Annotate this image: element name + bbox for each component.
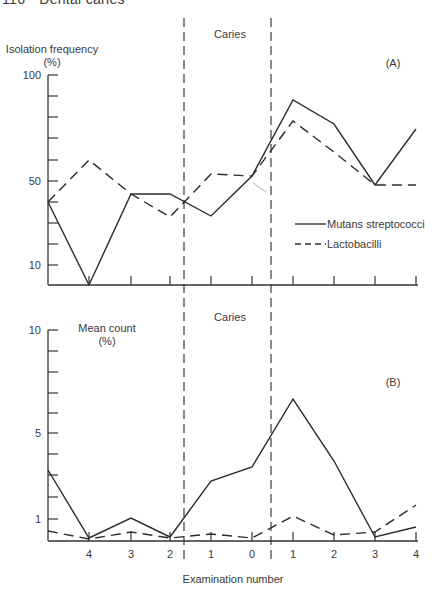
y-tick-label: 1 <box>35 513 41 525</box>
x-tick-label: 1 <box>208 548 214 560</box>
x-tick-label: 0 <box>249 548 255 560</box>
legend-label-mutans: Mutans streptococci <box>327 218 425 230</box>
y-tick-label: 100 <box>23 69 41 81</box>
panel-a-axes: 1005010 <box>23 69 418 285</box>
panel-a-chart: 1005010 Isolation frequency (%) (A) Cari… <box>6 28 425 285</box>
x-axis-title: Examination number <box>183 573 284 585</box>
panel-a-ylabel-line2: (%) <box>43 56 60 68</box>
panel-b-label: (B) <box>386 376 401 388</box>
x-tick-label: 4 <box>86 548 92 560</box>
x-tick-label: 2 <box>167 548 173 560</box>
scan-artifact <box>253 183 266 192</box>
panel-b-ylabel-line1: Mean count <box>78 322 135 334</box>
panel-b-ylabel-line2: (%) <box>98 335 115 347</box>
legend-label-lactobacilli: Lactobacilli <box>327 238 381 250</box>
panel-a-label: (A) <box>386 57 401 69</box>
panel-b-chart: 1051 Mean count (%) (B) Caries 432101234… <box>29 311 419 585</box>
panel-a-ylabel-line1: Isolation frequency <box>6 43 99 55</box>
caries-label-bottom: Caries <box>214 311 246 323</box>
series-lactobacilli <box>48 121 416 217</box>
series-mutans-streptococci <box>48 399 416 538</box>
panel-b-series <box>48 399 416 539</box>
y-tick-label: 50 <box>29 175 41 187</box>
caries-boundary-lines <box>184 18 271 560</box>
panel-a-series <box>48 100 416 285</box>
x-tick-label: 3 <box>128 548 134 560</box>
figure: 1005010 Isolation frequency (%) (A) Cari… <box>0 0 438 595</box>
y-tick-label: 10 <box>29 324 41 336</box>
y-tick-label: 10 <box>29 259 41 271</box>
legend: Mutans streptococci Lactobacilli <box>295 218 425 250</box>
series-mutans-streptococci <box>48 100 416 285</box>
x-tick-label: 3 <box>372 548 378 560</box>
caries-label-top: Caries <box>214 28 246 40</box>
x-tick-labels: 432101234 <box>86 548 419 560</box>
x-tick-label: 1 <box>290 548 296 560</box>
x-tick-label: 4 <box>413 548 419 560</box>
y-tick-label: 5 <box>35 427 41 439</box>
x-tick-label: 2 <box>331 548 337 560</box>
